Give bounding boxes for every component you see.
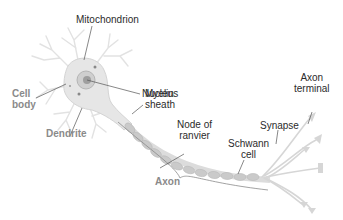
label-myelin-sheath: Myelin sheath xyxy=(145,88,175,110)
cell-body xyxy=(64,58,132,130)
label-axon-terminal: Axon terminal xyxy=(294,72,330,94)
label-synapse: Synapse xyxy=(260,120,299,131)
mitochondrion-dot xyxy=(69,85,71,87)
axon-terminals xyxy=(262,118,320,210)
label-axon: Axon xyxy=(155,176,180,187)
label-mitochondrion: Mitochondrion xyxy=(76,14,139,25)
neuron-illustration xyxy=(0,0,343,220)
label-schwann-cell: Schwann cell xyxy=(228,138,269,160)
label-dendrite: Dendrite xyxy=(46,128,87,139)
label-node-of-ranvier: Node of ranvier xyxy=(177,119,212,141)
mitochondrion-dot xyxy=(78,93,81,96)
label-cell-body: Cell body xyxy=(12,88,36,110)
mitochondrion-dot xyxy=(94,66,97,69)
